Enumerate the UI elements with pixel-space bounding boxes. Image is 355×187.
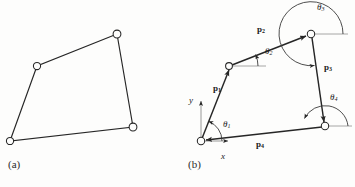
vertex-upper-left bbox=[226, 63, 233, 70]
figure-svg bbox=[0, 0, 355, 187]
panel-b-vector-polygon bbox=[197, 2, 352, 145]
vertex-bottom-left bbox=[6, 137, 13, 144]
figure-container: (a) (b) p1 p2 p3 p4 θ1 θ2 θ3 θ4 y x bbox=[0, 0, 355, 187]
vector-p2-label: p2 bbox=[257, 25, 265, 34]
angle-theta2-arc bbox=[256, 55, 258, 67]
axis-x-label: x bbox=[221, 152, 225, 161]
vertex-lower-right bbox=[321, 122, 328, 129]
polygon-a-outline bbox=[10, 34, 133, 141]
angle-theta1-label: θ1 bbox=[223, 120, 230, 129]
caption-panel-a: (a) bbox=[8, 158, 20, 170]
vertex-origin bbox=[197, 137, 204, 144]
vector-p1-label: p1 bbox=[213, 84, 221, 93]
caption-panel-b: (b) bbox=[188, 158, 201, 170]
vector-p3-label: p3 bbox=[324, 63, 332, 72]
vector-p1-arrow bbox=[201, 70, 229, 141]
vertex-right bbox=[129, 123, 137, 131]
angle-theta3-label: θ3 bbox=[317, 3, 324, 12]
vertex-left bbox=[33, 62, 40, 69]
panel-a-polygon bbox=[6, 30, 137, 144]
vector-p3-arrow bbox=[312, 38, 324, 122]
angle-theta2-label: θ2 bbox=[265, 47, 272, 56]
vertex-top bbox=[113, 30, 121, 38]
vector-p4-label: p4 bbox=[256, 140, 264, 149]
axis-y-label: y bbox=[189, 96, 193, 105]
angle-theta4-label: θ4 bbox=[330, 93, 337, 102]
vertex-top-right bbox=[307, 30, 314, 37]
